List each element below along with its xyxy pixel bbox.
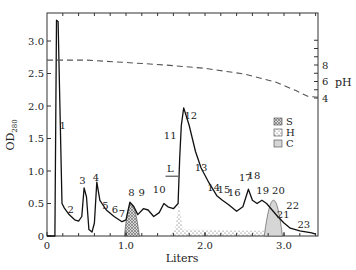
legend: SHC	[274, 116, 295, 149]
legend-swatch-H	[274, 129, 282, 136]
peak-label-1: 1	[60, 120, 66, 131]
peak-label-6: 6	[112, 204, 118, 215]
peak-label-13: 13	[195, 162, 208, 173]
y-axis-title-sub: 280	[11, 119, 19, 132]
x-tick-label: 3.0	[276, 240, 292, 251]
y-tick-label: 2.0	[28, 101, 44, 112]
y2-tick-label: 4	[322, 93, 328, 104]
y-tick-label: 1.0	[28, 166, 44, 177]
y-tick-label: 3.0	[28, 36, 44, 47]
y-tick-label: 0	[38, 231, 44, 242]
y-tick-label: 2.5	[28, 68, 44, 79]
y2-axis-title: pH	[335, 76, 352, 89]
y-axis-title: OD280	[4, 119, 19, 150]
x-tick-label: 1.0	[118, 240, 134, 251]
peak-label-2: 2	[68, 204, 74, 215]
peak-label-4: 4	[93, 172, 99, 183]
legend-label-H: H	[286, 127, 295, 138]
peak-label-3: 3	[79, 175, 85, 186]
y2-tick-label: 8	[322, 60, 328, 71]
peak-label-12: 12	[184, 110, 197, 121]
data-series	[47, 20, 318, 236]
legend-swatch-S	[274, 118, 282, 125]
peak-label-9: 9	[139, 187, 145, 198]
y2-tick-label: 6	[322, 76, 328, 87]
svg-text:OD280: OD280	[4, 119, 19, 150]
x-axis-title: Liters	[166, 252, 199, 265]
peak-label-10: 10	[153, 184, 166, 195]
x-tick-label: 0	[44, 240, 50, 251]
y-tick-label: 0.5	[28, 198, 44, 209]
y-axis-title-main: OD	[4, 133, 17, 151]
legend-swatch-C	[274, 140, 282, 147]
peak-label-11: 11	[164, 130, 177, 141]
ph-line	[47, 60, 318, 97]
shaded-region-H	[169, 204, 264, 237]
peak-label-18: 18	[248, 170, 261, 181]
shaded-regions	[124, 200, 282, 236]
chromatogram-chart: 01.02.03.000.51.01.52.02.53.0864 1234567…	[0, 0, 356, 270]
peak-label-5: 5	[102, 200, 108, 211]
x-tick-label: 2.0	[197, 240, 213, 251]
peak-label-23: 23	[297, 219, 310, 230]
peak-label-22: 22	[286, 200, 299, 211]
shaded-region-S	[124, 204, 139, 236]
peak-label-8: 8	[128, 187, 134, 198]
legend-label-S: S	[286, 116, 293, 127]
peak-label-19: 19	[256, 185, 269, 196]
peak-label-7: 7	[119, 208, 125, 219]
legend-label-C: C	[286, 138, 294, 149]
peak-label-L: L	[167, 163, 174, 174]
y-tick-label: 1.5	[28, 133, 44, 144]
peak-label-16: 16	[228, 187, 241, 198]
peak-label-20: 20	[272, 185, 285, 196]
